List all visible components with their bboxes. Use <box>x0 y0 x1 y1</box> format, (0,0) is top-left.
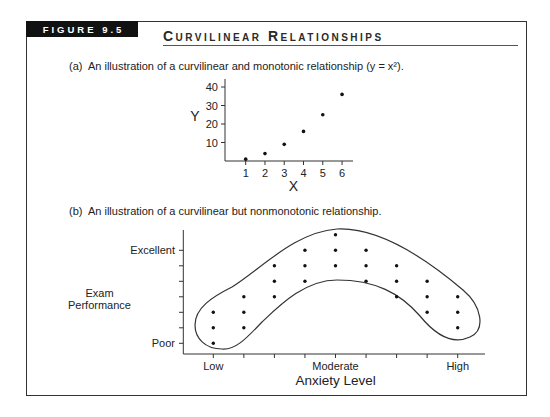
chart-b-y-label-line1: Exam <box>85 287 113 299</box>
chart-b-data-point <box>303 249 306 252</box>
chart-b-data-point <box>303 280 306 283</box>
chart-b-x-tick-label: High <box>446 360 469 372</box>
chart-b-data-point <box>334 264 337 267</box>
chart-b-data-point <box>456 311 459 314</box>
chart-a-x-tick-label: 6 <box>339 167 345 179</box>
chart-b-data-point <box>395 295 398 298</box>
chart-b-data-point <box>303 264 306 267</box>
figure-plots: Y X 10203040123456 Exam Performance Anxi… <box>0 0 550 417</box>
chart-b-data-point <box>273 295 276 298</box>
chart-a-y-tick-label: 20 <box>206 118 218 130</box>
chart-b-y-label-line2: Performance <box>68 299 131 311</box>
chart-a: Y X 10203040123456 <box>190 79 353 194</box>
chart-b-data-point <box>425 311 428 314</box>
chart-b-data-point <box>212 342 215 345</box>
chart-a-y-tick-label: 10 <box>206 137 218 149</box>
chart-a-y-label: Y <box>190 108 200 124</box>
chart-a-x-tick-label: 3 <box>281 167 287 179</box>
chart-b-marks: ExcellentPoorLowModerateHigh <box>130 233 469 372</box>
chart-a-x-tick-label: 5 <box>320 167 326 179</box>
chart-b-data-point <box>273 264 276 267</box>
chart-b-y-tick-label: Poor <box>152 337 176 349</box>
chart-a-data-point <box>340 93 344 97</box>
chart-b-outline <box>195 229 480 349</box>
chart-b-data-point <box>425 295 428 298</box>
chart-a-x-tick-label: 1 <box>243 167 249 179</box>
chart-b-data-point <box>364 264 367 267</box>
chart-a-x-label: X <box>289 178 299 194</box>
chart-b-data-point <box>395 264 398 267</box>
chart-a-marks: 10203040123456 <box>206 81 345 179</box>
chart-a-data-point <box>282 143 286 147</box>
chart-a-data-point <box>244 157 248 161</box>
chart-b-data-point <box>242 311 245 314</box>
chart-b-data-point <box>395 280 398 283</box>
chart-b-x-tick-label: Moderate <box>312 360 358 372</box>
chart-b-x-label: Anxiety Level <box>296 373 376 388</box>
chart-a-data-point <box>302 130 306 134</box>
chart-b-data-point <box>456 326 459 329</box>
chart-a-x-tick-label: 2 <box>262 167 268 179</box>
chart-a-y-tick-label: 30 <box>206 100 218 112</box>
chart-b-data-point <box>212 311 215 314</box>
chart-b-x-tick-label: Low <box>203 360 223 372</box>
chart-b-data-point <box>242 326 245 329</box>
chart-a-y-tick-label: 40 <box>206 81 218 93</box>
chart-a-data-point <box>263 152 267 156</box>
chart-b-data-point <box>364 280 367 283</box>
chart-b-y-tick-label: Excellent <box>130 244 175 256</box>
chart-b-data-point <box>273 280 276 283</box>
chart-b-data-point <box>334 249 337 252</box>
chart-b-data-point <box>242 295 245 298</box>
chart-b-data-point <box>212 326 215 329</box>
chart-b-data-point <box>456 295 459 298</box>
chart-b-data-point <box>364 249 367 252</box>
chart-b-data-point <box>334 233 337 236</box>
chart-a-x-tick-label: 4 <box>300 167 306 179</box>
chart-a-data-point <box>321 113 325 117</box>
chart-b: Exam Performance Anxiety Level Excellent… <box>68 229 485 388</box>
chart-b-data-point <box>425 280 428 283</box>
